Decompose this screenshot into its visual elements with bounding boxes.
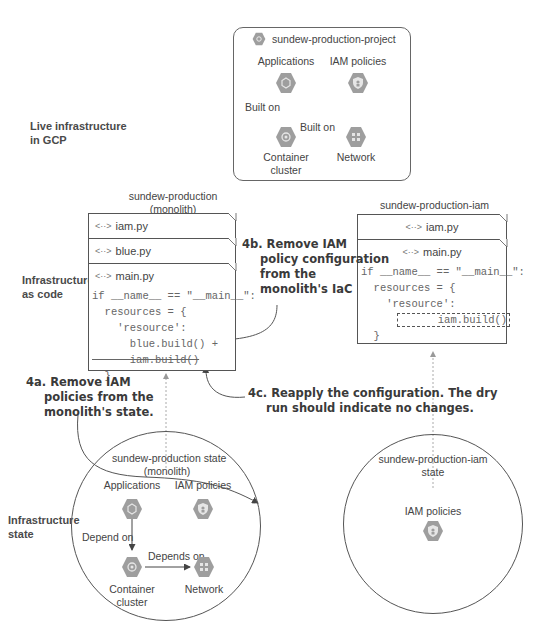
code-file-icon: <··>: [95, 246, 112, 256]
iam-code-title: sundew-production-iam: [372, 199, 497, 212]
applications-icon: [275, 72, 297, 94]
iam-policies-icon: [347, 72, 369, 94]
section-label-live: Live infrastructure in GCP: [30, 119, 127, 147]
monolith-main-code: if __name__ == "__main__": resources = {…: [89, 288, 235, 384]
iam-policies-icon: [422, 520, 444, 542]
file-name: blue.py: [116, 245, 151, 257]
callout-line: monolith's state.: [26, 405, 154, 420]
section-label-state: Infrastructure state: [8, 513, 80, 541]
code-file-icon: <··>: [95, 271, 112, 281]
file-name: iam.py: [116, 220, 148, 232]
container-cluster-icon: [121, 556, 143, 578]
iam-state-node-label: IAM policies: [403, 505, 463, 518]
code-file-icon: <··>: [402, 247, 419, 257]
code-file-icon: <··>: [406, 222, 423, 232]
page-fold-icon: [228, 263, 236, 271]
callout-head: 4b. Remove IAM: [242, 237, 347, 251]
callout-line: run should indicate no changes.: [248, 401, 497, 416]
code-line-removed: iam.build(): [92, 352, 235, 368]
highlighted-iam-build: iam.build(): [397, 313, 510, 327]
gcp-project-icon: [252, 32, 266, 46]
callout-head: 4a. Remove IAM: [26, 375, 131, 389]
code-line: if __name__ == "__main__":: [92, 288, 235, 304]
edge-label-built-on-2: Built on: [300, 121, 335, 134]
callout-line: monolith's IaC: [242, 282, 389, 297]
callout-4b: 4b. Remove IAM policy configuration from…: [242, 237, 389, 297]
file-tab-main-py[interactable]: <··> main.py: [89, 264, 235, 288]
iam-state-title: sundew-production-iam state: [378, 453, 488, 479]
project-node-label-network: Network: [326, 151, 386, 164]
monolith-state-title: sundew-production state (monolith): [112, 452, 222, 478]
file-name: main.py: [423, 246, 462, 258]
file-tab-blue-py[interactable]: <··> blue.py: [89, 239, 235, 264]
state-node-label-cluster: Container cluster: [102, 583, 162, 609]
page-fold-icon: [228, 213, 236, 221]
file-name: main.py: [116, 270, 155, 282]
page-fold-icon: [499, 239, 507, 247]
page-fold-icon: [228, 238, 236, 246]
state-node-label-network: Network: [174, 583, 234, 596]
project-node-label-iam: IAM policies: [328, 55, 388, 68]
network-icon: [193, 556, 215, 578]
container-cluster-icon: [275, 126, 297, 148]
code-line-added: iam.build(): [361, 312, 506, 328]
callout-line: from the: [242, 267, 389, 282]
project-node-label-cluster: Container cluster: [256, 151, 316, 177]
code-line: }: [361, 328, 506, 344]
applications-icon: [121, 498, 143, 520]
section-label-code: Infrastructure as code: [22, 273, 94, 301]
callout-head: 4c. Reapply the configuration. The dry: [248, 386, 497, 400]
file-name: iam.py: [426, 221, 458, 233]
file-tab-iam-py[interactable]: <··> iam.py: [89, 214, 235, 239]
monolith-code-stack: <··> iam.py <··> blue.py <··> main.py if…: [88, 213, 236, 371]
state-node-label-iam: IAM policies: [173, 479, 233, 492]
edge-label-built-on-1: Built on: [245, 101, 280, 114]
code-line: blue.build() +: [92, 336, 235, 352]
callout-line: policy configuration: [242, 252, 389, 267]
state-node-label-applications: Applications: [102, 479, 162, 492]
edge-label-depend-on: Depend on: [82, 531, 133, 544]
code-file-icon: <··>: [95, 221, 112, 231]
code-line: 'resource':: [92, 320, 235, 336]
iam-policies-icon: [192, 498, 214, 520]
network-icon: [345, 126, 367, 148]
page-fold-icon: [499, 214, 507, 222]
callout-4a: 4a. Remove IAM policies from the monolit…: [26, 375, 154, 420]
code-line: resources = {: [92, 304, 235, 320]
code-line: 'resource':: [361, 296, 506, 312]
project-header: sundew-production-project: [252, 32, 396, 46]
callout-line: policies from the: [26, 390, 154, 405]
project-node-label-applications: Applications: [256, 55, 316, 68]
project-title: sundew-production-project: [272, 33, 396, 46]
callout-4c: 4c. Reapply the configuration. The dry r…: [248, 386, 497, 416]
